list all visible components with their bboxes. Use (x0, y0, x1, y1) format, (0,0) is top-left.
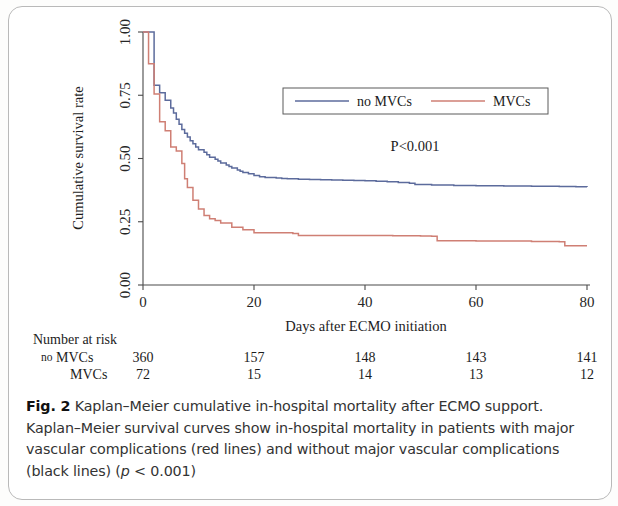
risk-table-title: Number at risk (33, 332, 117, 348)
risk-row-mvcs: MVCs 7215141312 (0, 367, 618, 384)
legend-label-no-mvcs[interactable]: no MVCs (357, 94, 412, 109)
x-tick-label: 20 (247, 294, 262, 310)
risk-value-no-mvcs: 141 (567, 350, 607, 366)
risk-value-mvcs: 12 (567, 367, 607, 383)
caption-body: Kaplan–Meier cumulative in-hospital mort… (26, 398, 574, 479)
kaplan-meier-chart: 0.000.250.500.751.00 020406080 no MVCsMV… (0, 0, 618, 340)
risk-value-no-mvcs: 148 (345, 350, 385, 366)
risk-value-no-mvcs: 143 (456, 350, 496, 366)
chart-legend[interactable]: no MVCsMVCs (283, 88, 548, 114)
caption-p-rest: < 0.001) (130, 463, 196, 479)
risk-value-mvcs: 72 (123, 367, 163, 383)
survival-plot-svg: 0.000.250.500.751.00 020406080 no MVCsMV… (0, 0, 618, 340)
y-tick-label: 0.25 (117, 209, 133, 235)
figure-caption: Fig. 2 Kaplan–Meier cumulative in-hospit… (26, 396, 592, 482)
caption-label: Fig. 2 (26, 398, 70, 414)
survival-curves (143, 32, 587, 246)
survival-curve-mvcs (143, 32, 587, 246)
figure-page: 0.000.250.500.751.00 020406080 no MVCsMV… (0, 0, 618, 506)
x-tick-label: 80 (580, 294, 595, 310)
number-at-risk-table: Number at risk no MVCs 360157148143141 M… (0, 332, 618, 390)
risk-row-label-mvcs: MVCs (70, 367, 107, 383)
y-tick-label: 0.75 (117, 82, 133, 108)
risk-value-mvcs: 14 (345, 367, 385, 383)
legend-label-mvcs[interactable]: MVCs (493, 94, 530, 109)
risk-value-no-mvcs: 157 (234, 350, 274, 366)
p-value-annotation: P<0.001 (391, 138, 440, 154)
risk-value-no-mvcs: 360 (123, 350, 163, 366)
risk-value-mvcs: 15 (234, 367, 274, 383)
x-tick-label: 40 (358, 294, 373, 310)
y-tick-label: 0.50 (117, 145, 133, 171)
x-tick-label: 0 (139, 294, 147, 310)
x-axis-ticks: 020406080 (139, 285, 594, 310)
y-tick-label: 0.00 (117, 272, 133, 298)
x-tick-label: 60 (469, 294, 484, 310)
y-axis-title: Cumulative survival rate (70, 86, 86, 229)
risk-row-no-mvcs: no MVCs 360157148143141 (0, 350, 618, 367)
risk-row-prefix: no (41, 351, 53, 363)
risk-row-name: MVCs (56, 350, 93, 365)
risk-value-mvcs: 13 (456, 367, 496, 383)
y-tick-label: 1.00 (117, 19, 133, 45)
y-axis-ticks: 0.000.250.500.751.00 (117, 19, 143, 298)
caption-p-symbol: p (121, 463, 130, 479)
risk-row-label-no-mvcs: no MVCs (41, 350, 93, 366)
